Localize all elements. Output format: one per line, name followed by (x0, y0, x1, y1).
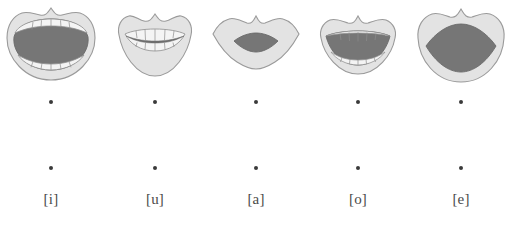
dot-upper-o (356, 100, 360, 104)
mouth-shape-u (104, 0, 206, 92)
vowel-column-u: [u] (104, 0, 206, 231)
dot-lower-u (153, 166, 157, 170)
vowel-mouth-shapes-diagram: [i] (0, 0, 506, 231)
vowel-label-o: [o] (307, 190, 409, 208)
mouth-shape-a (205, 0, 307, 92)
dot-lower-a (254, 166, 258, 170)
mouth-shape-e (410, 0, 506, 92)
dot-upper-i (49, 100, 53, 104)
vowel-column-i: [i] (0, 0, 102, 231)
vowel-label-u: [u] (104, 190, 206, 208)
mouth-shape-i (0, 0, 102, 92)
dot-upper-u (153, 100, 157, 104)
vowel-column-o: [o] (307, 0, 409, 231)
dot-upper-a (254, 100, 258, 104)
dot-lower-o (356, 166, 360, 170)
vowel-label-e: [e] (410, 190, 506, 208)
vowel-label-i: [i] (0, 190, 102, 208)
dot-lower-e (459, 166, 463, 170)
vowel-column-e: [e] (410, 0, 506, 231)
vowel-label-a: [a] (205, 190, 307, 208)
mouth-shape-o (307, 0, 409, 92)
vowel-column-a: [a] (205, 0, 307, 231)
dot-lower-i (49, 166, 53, 170)
dot-upper-e (459, 100, 463, 104)
